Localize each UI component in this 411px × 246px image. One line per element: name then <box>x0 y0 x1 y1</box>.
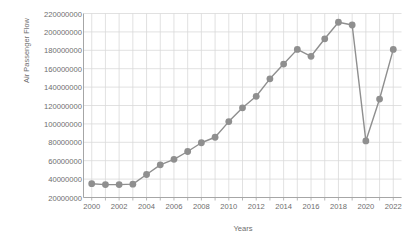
plot-area <box>0 0 411 246</box>
line-chart: Air Passenger Flow Years 220000000200000… <box>0 0 411 246</box>
